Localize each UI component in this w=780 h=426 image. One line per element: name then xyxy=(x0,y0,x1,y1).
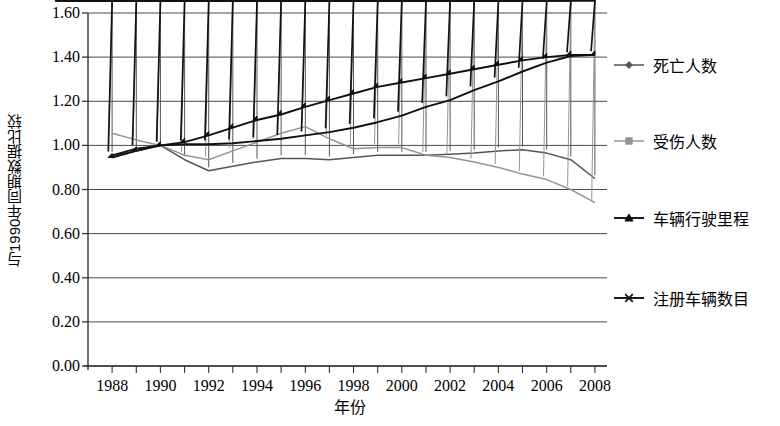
legend-item[interactable]: 受伤人数 xyxy=(612,126,717,156)
data-point-marker xyxy=(128,1,354,128)
data-point-marker xyxy=(626,62,633,69)
legend-item[interactable]: 注册车辆数目 xyxy=(612,283,749,313)
data-point-marker xyxy=(145,1,160,146)
x-axis-tick-label: 2008 xyxy=(567,378,623,394)
data-point-marker xyxy=(133,1,149,149)
legend-item-label: 车辆行驶里程 xyxy=(653,206,749,230)
legend-item-label: 死亡人数 xyxy=(653,53,717,77)
data-point-marker xyxy=(144,1,208,145)
data-point-marker xyxy=(626,138,632,144)
data-point-marker xyxy=(90,1,474,90)
diamond-marker-icon xyxy=(612,57,646,73)
data-point-marker xyxy=(144,1,184,145)
data-point-marker xyxy=(108,154,112,158)
chart-container: 与1990年同期数据比较 1.601.401.201.000.800.600.4… xyxy=(0,0,780,426)
data-point-marker xyxy=(72,1,523,72)
data-point-marker xyxy=(100,1,450,100)
triangle-marker-icon xyxy=(612,210,646,226)
chart-legend: 死亡人数受伤人数车辆行驶里程注册车辆数目 xyxy=(612,28,780,328)
legend-item[interactable]: 车辆行驶里程 xyxy=(612,203,749,233)
legend-item-label: 注册车辆数目 xyxy=(653,286,749,310)
legend-item[interactable]: 死亡人数 xyxy=(612,50,717,80)
square-marker-icon xyxy=(612,133,646,149)
legend-item-label: 受伤人数 xyxy=(653,129,717,153)
data-point-marker xyxy=(108,1,155,156)
x-axis-title: 年份 xyxy=(280,394,420,418)
cross-marker-icon xyxy=(612,290,646,306)
data-point-marker xyxy=(56,1,571,56)
